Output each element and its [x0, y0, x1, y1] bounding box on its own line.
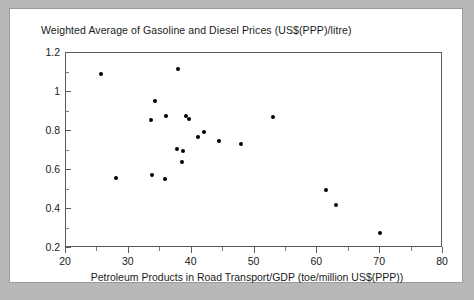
x-axis-tick-label: 40: [185, 255, 197, 267]
y-axis-tick: [65, 169, 71, 170]
data-point: [202, 130, 206, 134]
y-axis-tick-label: 0.4: [45, 202, 60, 214]
y-axis-tick-label: 0.6: [45, 163, 60, 175]
y-axis-tick: [65, 208, 71, 209]
data-point: [150, 173, 154, 177]
data-point: [378, 231, 382, 235]
data-point: [99, 72, 103, 76]
x-axis-tick: [442, 247, 443, 253]
x-axis-tick-label: 30: [122, 255, 134, 267]
x-axis-tick: [316, 247, 317, 253]
x-axis-tick: [254, 247, 255, 253]
y-axis-minor-tick: [65, 150, 69, 151]
data-point: [175, 147, 179, 151]
x-axis-tick-label: 80: [436, 255, 448, 267]
x-axis-tick-label: 70: [373, 255, 385, 267]
data-point: [217, 139, 221, 143]
y-axis-tick-label: 1: [54, 85, 60, 97]
y-axis-minor-tick: [65, 189, 69, 190]
x-axis-minor-tick: [285, 247, 286, 251]
chart-title: Weighted Average of Gasoline and Diesel …: [41, 24, 352, 36]
y-axis-tick-labels: 0.20.40.60.811.2: [23, 52, 60, 247]
data-point: [187, 117, 191, 121]
x-axis-tick-label: 50: [248, 255, 260, 267]
data-point: [164, 114, 168, 118]
y-axis-tick: [65, 130, 71, 131]
y-axis-tick-label: 0.8: [45, 124, 60, 136]
data-point: [324, 188, 328, 192]
y-axis-minor-tick: [65, 72, 69, 73]
data-point: [180, 160, 184, 164]
plot-area: [65, 52, 442, 247]
data-point: [239, 142, 243, 146]
data-point: [176, 67, 180, 71]
data-point: [334, 203, 338, 207]
y-axis-minor-tick: [65, 228, 69, 229]
x-axis-tick: [379, 247, 380, 253]
x-axis-tick: [128, 247, 129, 253]
data-point: [271, 115, 275, 119]
y-axis-tick-label: 1.2: [45, 46, 60, 58]
x-axis-minor-tick: [411, 247, 412, 251]
x-axis-tick: [65, 247, 66, 253]
data-point: [196, 135, 200, 139]
x-axis-tick-label: 60: [310, 255, 322, 267]
data-point: [149, 118, 153, 122]
y-axis-tick: [65, 91, 71, 92]
x-axis-minor-tick: [222, 247, 223, 251]
y-axis-minor-tick: [65, 111, 69, 112]
figure-panel: Weighted Average of Gasoline and Diesel …: [9, 8, 463, 283]
x-axis-tick: [191, 247, 192, 253]
y-axis-tick: [65, 52, 71, 53]
x-axis-title: Petroleum Products in Road Transport/GDP…: [10, 271, 474, 283]
data-point: [114, 176, 118, 180]
data-point: [153, 99, 157, 103]
data-point: [163, 177, 167, 181]
x-axis-tick-label: 20: [59, 255, 71, 267]
x-axis-minor-tick: [348, 247, 349, 251]
data-point: [181, 149, 185, 153]
y-axis-tick-label: 0.2: [45, 241, 60, 253]
x-axis-minor-tick: [159, 247, 160, 251]
x-axis-minor-tick: [96, 247, 97, 251]
